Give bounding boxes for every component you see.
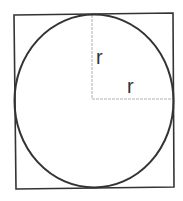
inscribed-circle-diagram: r r <box>0 0 183 201</box>
background <box>0 0 183 201</box>
vertical-radius-label: r <box>96 46 103 68</box>
horizontal-radius-label: r <box>127 75 134 97</box>
